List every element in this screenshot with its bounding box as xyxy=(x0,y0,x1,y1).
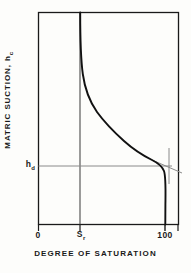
x-axis-title: DEGREE OF SATURATION xyxy=(0,249,191,258)
x-tick-label-0: 0 xyxy=(31,230,45,240)
x-tick-label-sr-subscript: r xyxy=(83,235,85,241)
y-tick-label-hd: hd xyxy=(17,159,35,171)
x-tick-label-sr: Sr xyxy=(72,229,90,241)
y-axis-title-text: MATRIC SUCTION, h xyxy=(3,55,12,148)
y-tick-label-hd-subscript: d xyxy=(31,165,35,171)
y-axis-title-subscript: c xyxy=(7,52,13,55)
y-axis-title: MATRIC SUCTION, hc xyxy=(0,0,16,200)
swcc-curve xyxy=(80,13,165,225)
figure-container: MATRIC SUCTION, hc DEGREE OF SATURATION … xyxy=(0,0,191,273)
plot-frame xyxy=(39,13,179,225)
x-tick-label-100: 100 xyxy=(152,230,178,240)
